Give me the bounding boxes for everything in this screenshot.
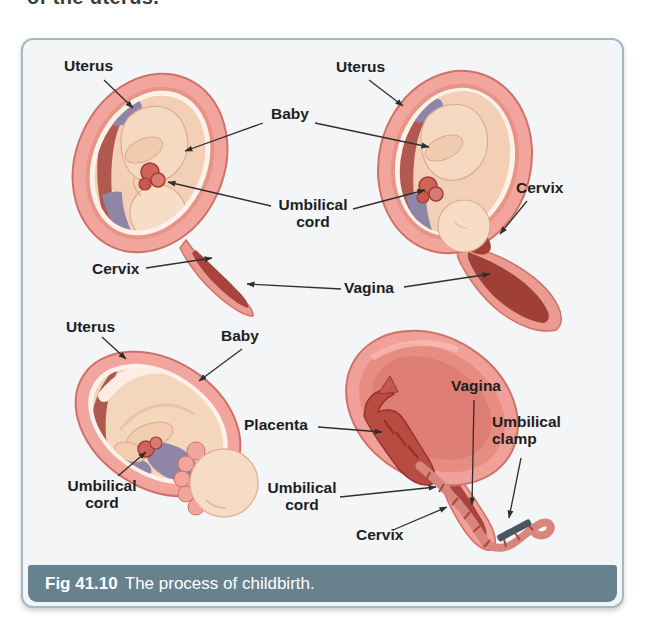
label-stage4-umbilical-cord: Umbilical cord <box>256 479 348 513</box>
label-stage3-umbilical-cord: Umbilical cord <box>52 477 152 511</box>
label-line: cord <box>268 213 358 230</box>
label-stage2-cervix: Cervix <box>516 179 563 196</box>
baby-head <box>438 200 490 252</box>
label-stage2-uterus: Uterus <box>336 58 385 75</box>
leader-stage4-cord <box>340 487 436 497</box>
label-stage4-cervix: Cervix <box>356 526 403 543</box>
illustration-stage1 <box>45 49 255 316</box>
label-line: cord <box>52 494 152 511</box>
label-line: cord <box>256 496 348 513</box>
label-vagina-top: Vagina <box>344 279 394 296</box>
leader-stage3-baby <box>199 349 242 381</box>
emerging-baby-head <box>190 449 258 517</box>
label-stage3-uterus: Uterus <box>66 318 115 335</box>
label-stage1-uterus: Uterus <box>64 57 113 74</box>
label-umbilical-clamp: Umbilical clamp <box>492 413 582 447</box>
label-line: clamp <box>492 430 582 447</box>
label-umbilical-cord-top: Umbilical cord <box>268 196 358 230</box>
label-line: Umbilical <box>492 413 582 430</box>
label-line: Umbilical <box>256 479 348 496</box>
label-stage3-baby: Baby <box>221 327 259 344</box>
label-stage4-vagina: Vagina <box>451 377 501 394</box>
label-baby-top: Baby <box>260 105 320 122</box>
label-line: Umbilical <box>268 196 358 213</box>
label-stage1-cervix: Cervix <box>92 260 139 277</box>
label-line: Umbilical <box>52 477 152 494</box>
leader-vagina-left <box>247 284 341 289</box>
leader-clamp <box>509 458 521 518</box>
leader-stage2-uterus <box>369 80 403 106</box>
label-placenta: Placenta <box>244 416 308 433</box>
page: of the uterus. Fig 41.10 The process of … <box>0 0 655 635</box>
